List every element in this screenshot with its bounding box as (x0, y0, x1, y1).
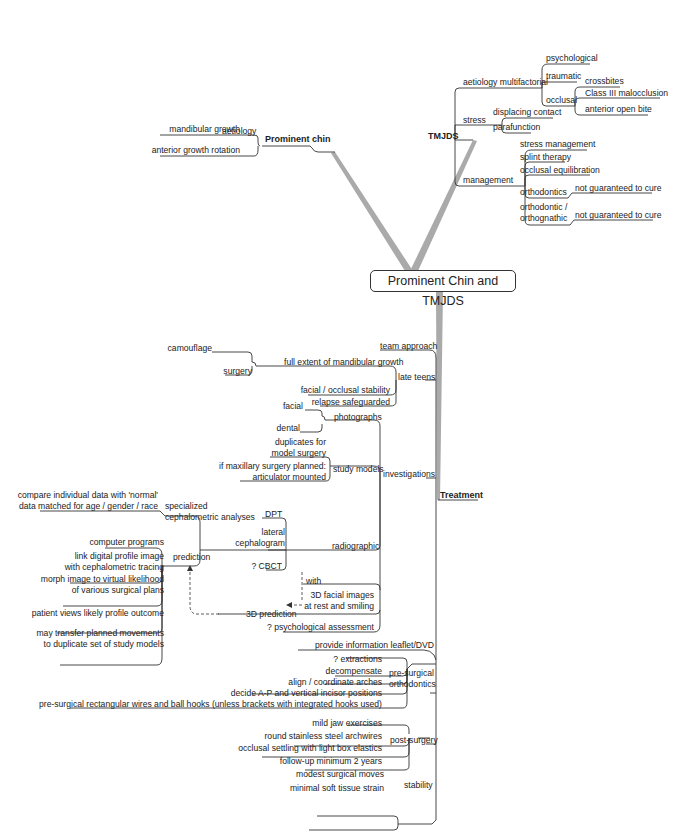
ortho-orthognathic-node-line1[interactable]: orthodontic / (520, 202, 567, 212)
maxillary-surgery-node-line1[interactable]: if maxillary surgery planned: (219, 461, 326, 471)
surgery-node[interactable]: surgery (223, 366, 252, 376)
relapse-safeguarded-node[interactable]: relapse safeguarded (312, 397, 390, 407)
compare-data-node-line2[interactable]: data matched for age / gender / race (19, 501, 158, 511)
link-profile-node-line2[interactable]: with cephalometric tracing (65, 562, 164, 572)
dpt-node[interactable]: DPT (265, 509, 282, 519)
photographs-node[interactable]: photographs (334, 412, 382, 422)
radiographic-node[interactable]: radiographic (332, 541, 379, 551)
psychological-node[interactable]: psychological (546, 53, 598, 63)
investigations-node[interactable]: investigations (383, 469, 435, 479)
cbct-node[interactable]: ? CBCT (251, 561, 282, 571)
computer-programs-node[interactable]: computer programs (89, 537, 164, 547)
follow-up-node[interactable]: follow-up minimum 2 years (280, 756, 382, 766)
facial-photo-node[interactable]: facial (283, 401, 303, 411)
dental-photo-node[interactable]: dental (277, 423, 300, 433)
archwires-node[interactable]: round stainless steel archwires (264, 731, 382, 741)
prediction-node[interactable]: prediction (173, 552, 210, 562)
patient-views-node[interactable]: patient views likely profile outcome (32, 608, 164, 618)
3d-prediction-node[interactable]: 3D prediction (246, 609, 297, 619)
duplicates-node-line1[interactable]: duplicates for (275, 437, 326, 447)
mild-jaw-exercises-node[interactable]: mild jaw exercises (312, 718, 382, 728)
tmjds-node[interactable]: TMJDS (428, 131, 459, 141)
duplicates-node-line2[interactable]: model surgery (272, 448, 326, 458)
leaflet-node[interactable]: provide information leaflet/DVD (315, 640, 434, 650)
extractions-node[interactable]: ? extractions (333, 654, 382, 664)
modest-moves-node[interactable]: modest surgical moves (296, 769, 384, 779)
transfer-movements-node-line1[interactable]: may transfer planned movements (36, 628, 164, 638)
displacing-contact-node[interactable]: displacing contact (493, 107, 561, 117)
align-arches-node[interactable]: align / coordinate arches (288, 677, 382, 687)
pre-surgical-ortho-node-line2[interactable]: orthodontics (389, 679, 436, 689)
mandibular-growth-node[interactable]: mandibular growth (169, 124, 240, 134)
decompensate-node[interactable]: decompensate (326, 666, 382, 676)
team-approach-node[interactable]: team approach (380, 341, 437, 351)
ortho-orthognathic-node-line2[interactable]: orthognathic (520, 213, 567, 223)
morph-image-node-line2[interactable]: of various surgical plans (72, 585, 164, 595)
prominent-chin-node[interactable]: Prominent chin (265, 134, 331, 144)
splint-therapy-node[interactable]: splint therapy (520, 152, 571, 162)
ortho-orthognathic-note[interactable]: not guaranteed to cure (575, 210, 661, 220)
rectangular-wires-node[interactable]: pre-surgical rectangular wires and ball … (39, 699, 382, 709)
stress-node[interactable]: stress (463, 115, 486, 125)
class-iii-node[interactable]: Class III malocclusion (585, 88, 668, 98)
anterior-growth-rotation-node[interactable]: anterior growth rotation (152, 145, 240, 155)
anterior-open-bite-node[interactable]: anterior open bite (585, 104, 652, 114)
study-models-node[interactable]: study models (333, 464, 384, 474)
specialized-ceph-node-line2[interactable]: cephalometric analyses (165, 512, 255, 522)
orthodontics-note[interactable]: not guaranteed to cure (575, 183, 661, 193)
occlusal-equilibration-node[interactable]: occlusal equilibration (520, 165, 600, 175)
with-label: with (306, 576, 321, 586)
link-profile-node-line1[interactable]: link digital profile image (75, 551, 164, 561)
stress-management-node[interactable]: stress management (520, 139, 595, 149)
camouflage-node[interactable]: camouflage (168, 343, 212, 353)
lateral-ceph-node-line1[interactable]: lateral (262, 527, 285, 537)
facial-occlusal-stability-node[interactable]: facial / occlusal stability (301, 385, 390, 395)
management-node[interactable]: management (463, 175, 513, 185)
occlusal-settling-node[interactable]: occlusal settling with light box elastic… (238, 743, 382, 753)
post-surgery-node[interactable]: post-surgery (390, 735, 438, 745)
traumatic-node[interactable]: traumatic (546, 71, 581, 81)
transfer-movements-node-line2[interactable]: to duplicate set of study models (44, 639, 164, 649)
parafunction-node[interactable]: parafunction (493, 122, 540, 132)
3d-facial-node-line2[interactable]: at rest and smiling (304, 601, 374, 611)
compare-data-node-line1[interactable]: compare individual data with 'normal' (18, 490, 158, 500)
treatment-node[interactable]: Treatment (440, 490, 483, 500)
aetiology-multifactorial-node[interactable]: aetiology multifactorial (463, 77, 548, 87)
stability-node[interactable]: stability (404, 780, 433, 790)
soft-tissue-strain-node[interactable]: minimal soft tissue strain (290, 783, 384, 793)
crossbites-node[interactable]: crossbites (585, 76, 624, 86)
maxillary-surgery-node-line2[interactable]: articulator mounted (252, 472, 326, 482)
occlusal-node[interactable]: occlusal (546, 95, 577, 105)
full-extent-node[interactable]: full extent of mandibular growth (284, 357, 403, 367)
specialized-ceph-node-line1[interactable]: specialized (165, 501, 208, 511)
orthodontics-node[interactable]: orthodontics (520, 187, 567, 197)
central-topic[interactable]: Prominent Chin and TMJDS (370, 270, 516, 292)
3d-facial-node-line1[interactable]: 3D facial images (310, 590, 374, 600)
lateral-ceph-node-line2[interactable]: cephalogram (235, 538, 285, 548)
decide-incisor-node[interactable]: decide A-P and vertical incisor position… (231, 688, 382, 698)
psychological-assessment-node[interactable]: ? psychological assessment (267, 622, 374, 632)
pre-surgical-ortho-node-line1[interactable]: pre-surgical (389, 668, 434, 678)
morph-image-node-line1[interactable]: morph image to virtual likelihood (41, 574, 164, 584)
late-teens-node[interactable]: late teens (398, 372, 435, 382)
